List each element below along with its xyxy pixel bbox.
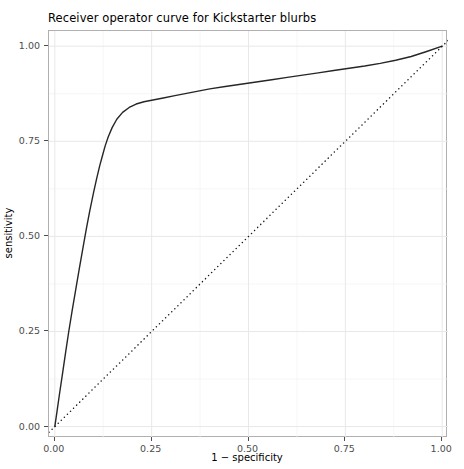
y-tick-mark [44,45,48,46]
x-tick-mark [344,437,345,441]
y-tick-label: 0.25 [8,325,40,336]
x-tick-label: 0.00 [43,443,64,454]
y-tick-mark [44,330,48,331]
x-tick-mark [151,437,152,441]
y-tick-label: 0.00 [8,420,40,431]
major-gridlines [49,31,448,438]
y-tick-label: 1.00 [8,40,40,51]
plot-svg [49,31,448,438]
x-tick-label: 0.25 [140,443,161,454]
y-tick-mark [44,426,48,427]
y-tick-label: 0.75 [8,135,40,146]
chart-title: Receiver operator curve for Kickstarter … [48,11,316,25]
x-tick-label: 0.75 [334,443,355,454]
y-tick-mark [44,140,48,141]
x-tick-label: 0.50 [237,443,258,454]
x-tick-mark [441,437,442,441]
x-tick-mark [54,437,55,441]
y-tick-mark [44,235,48,236]
x-tick-mark [248,437,249,441]
x-tick-label: 1.00 [431,443,452,454]
y-tick-label: 0.50 [8,230,40,241]
plot-panel [48,30,447,437]
roc-chart-figure: Receiver operator curve for Kickstarter … [0,0,464,469]
